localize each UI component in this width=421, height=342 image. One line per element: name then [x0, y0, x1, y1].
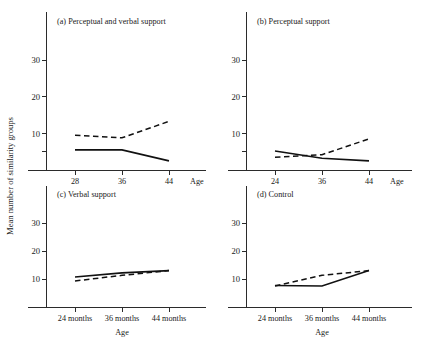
panel-d-ytick-label-30: 30: [231, 218, 240, 228]
panel-d-xtick-label-3: 44 months: [352, 314, 386, 323]
panel-a: 30 20 10 28 36 44 Age (a) Perceptual and…: [28, 12, 206, 186]
series-line-dashed: [75, 121, 169, 137]
panel-d-plot-area: [275, 271, 369, 286]
y-axis-label: Mean number of similarity groups: [5, 116, 15, 235]
panel-d-x-axis-name: Age: [315, 328, 329, 337]
panel-a-xtick-label-2: 36: [118, 177, 126, 186]
panel-a-plot-area: [75, 121, 169, 161]
panel-b-ytick-label-20: 20: [231, 92, 240, 102]
figure-container: Mean number of similarity groups 30 20 1…: [0, 0, 421, 342]
panel-a-title: (a) Perceptual and verbal support: [57, 17, 166, 26]
panel-c-ytick-label-30: 30: [31, 218, 40, 228]
panel-b-xtick-label-2: 36: [318, 177, 326, 186]
series-line-solid: [275, 271, 369, 286]
panel-a-ytick-label-20: 20: [31, 92, 40, 102]
panel-b-xtick-label-3: 44: [365, 177, 373, 186]
panel-c-xtick-label-3: 44 months: [152, 314, 186, 323]
series-line-solid: [75, 150, 169, 161]
panel-c-title: (c) Verbal support: [57, 190, 117, 199]
series-line-dashed: [275, 271, 369, 286]
panel-d-xtick-label-2: 36 months: [305, 314, 339, 323]
panel-d-ytick-label-10: 10: [231, 274, 240, 284]
panel-a-xtick-label-3: 44: [165, 177, 173, 186]
panel-a-xtick-label-1: 28: [71, 177, 79, 186]
panel-b-plot-area: [275, 139, 369, 161]
panel-b-xtick-label-1: 24: [271, 177, 279, 186]
panel-c: 30 20 10 24 months 36 months 44 months A…: [28, 186, 206, 337]
panel-a-ytick-label-10: 10: [31, 129, 40, 139]
panel-a-ytick-label-30: 30: [31, 55, 40, 65]
panel-b: 30 20 10 24 36 44 Age (b) Perceptual sup…: [228, 12, 412, 186]
panel-d-ytick-label-20: 20: [231, 246, 240, 256]
panel-b-x-axis-name: Age: [390, 177, 404, 186]
panel-c-plot-area: [75, 271, 169, 281]
panel-b-ytick-label-10: 10: [231, 129, 240, 139]
panel-c-xtick-label-1: 24 months: [58, 314, 92, 323]
panel-d-title: (d) Control: [257, 190, 294, 199]
panel-c-ytick-label-20: 20: [31, 246, 40, 256]
panel-a-x-axis-name: Age: [190, 177, 204, 186]
panel-c-xtick-label-2: 36 months: [105, 314, 139, 323]
panel-c-x-axis-name: Age: [115, 328, 129, 337]
panel-d-xtick-label-1: 24 months: [258, 314, 292, 323]
series-line-dashed: [275, 139, 369, 157]
panel-b-title: (b) Perceptual support: [257, 17, 330, 26]
panel-d: 30 20 10 24 months 36 months 44 months A…: [228, 186, 412, 337]
panel-b-ytick-label-30: 30: [231, 55, 240, 65]
panel-c-ytick-label-10: 10: [31, 274, 40, 284]
